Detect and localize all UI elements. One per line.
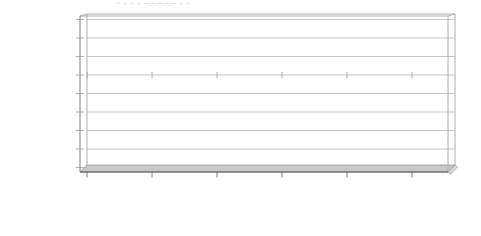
chart-floor [80,165,458,174]
floor-top-surface [80,165,455,172]
break-even-chart [0,0,481,236]
gridlines [87,20,455,150]
break-even-chart-svg [0,0,481,236]
bottom-axis-ticks [87,172,412,178]
back-wall [87,14,455,165]
